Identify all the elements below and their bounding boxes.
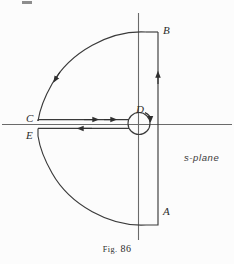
contour-bottom-corner <box>146 212 158 225</box>
point-label-E: E <box>26 130 33 141</box>
caption-number: 86 <box>121 243 132 254</box>
figure-caption: Fig. 86 <box>0 243 234 254</box>
s-plane-label: s-plane <box>184 152 219 163</box>
contour-diagram <box>0 0 234 264</box>
point-label-B: B <box>163 25 170 36</box>
point-label-A: A <box>163 206 170 217</box>
point-label-C: C <box>26 113 34 124</box>
figure-86-container: B A C E D s-plane Fig. 86 <box>0 0 234 264</box>
point-label-D: D <box>136 104 144 115</box>
contour-upper-arc <box>38 32 146 121</box>
contour-lower-arc <box>38 136 146 225</box>
caption-prefix: Fig. <box>103 245 118 254</box>
arrow-upper-arc <box>55 72 60 80</box>
